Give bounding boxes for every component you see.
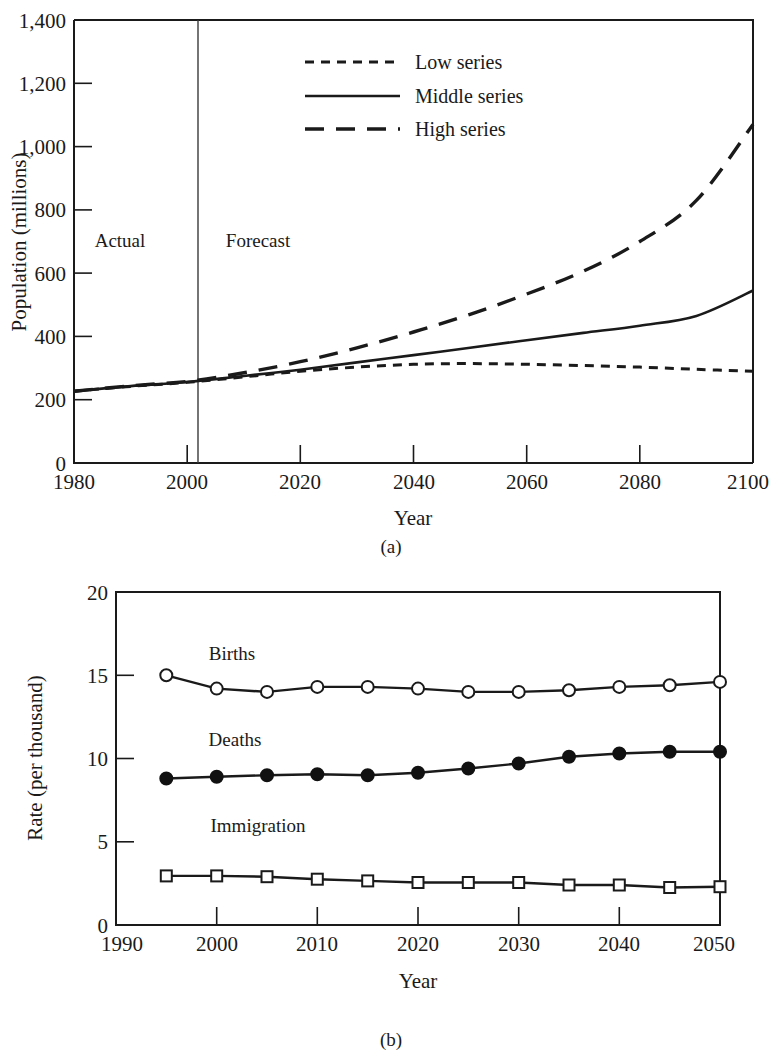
marker-births — [412, 683, 424, 695]
marker-births — [613, 681, 625, 693]
y-tick-label: 10 — [87, 747, 108, 771]
x-tick-labels-a: 1980 2000 2020 2040 2060 2080 2100 — [53, 470, 769, 494]
x-tick-label: 2080 — [619, 470, 661, 494]
y-tick-label: 1,400 — [19, 9, 66, 33]
axis-frame-top-right-a — [74, 20, 753, 463]
y-tick-labels-b: 20 15 10 5 0 — [87, 581, 108, 938]
marker-births — [462, 686, 474, 698]
curve-middle-series — [74, 291, 753, 392]
y-tick-label: 15 — [87, 664, 108, 688]
marker-births — [211, 683, 223, 695]
marker-deaths — [412, 767, 424, 779]
y-tick-label: 1,200 — [19, 72, 66, 96]
marker-births — [513, 686, 525, 698]
figure-a-population-forecast: 1,400 1,200 1,000 800 600 400 200 0 1980… — [0, 0, 782, 560]
marker-births — [311, 681, 323, 693]
marker-deaths — [714, 746, 726, 758]
line-immigration — [166, 876, 720, 888]
marker-deaths — [261, 769, 273, 781]
marker-immigration — [161, 870, 172, 881]
x-ticks-b — [217, 907, 620, 925]
x-tick-label: 2050 — [693, 932, 735, 956]
x-tick-label: 2040 — [598, 932, 640, 956]
y-ticks-b — [116, 675, 134, 842]
marker-deaths — [664, 746, 676, 758]
x-tick-label: 1990 — [101, 932, 143, 956]
chart-a-axes — [74, 20, 753, 463]
marker-immigration — [664, 882, 675, 893]
marker-immigration — [715, 881, 726, 892]
x-tick-label: 2000 — [166, 470, 208, 494]
marker-births — [261, 686, 273, 698]
x-axis-title-a: Year — [394, 506, 433, 530]
chart-b-svg: 20 15 10 5 0 1990 2000 2010 2020 2030 20… — [0, 560, 782, 1059]
x-tick-label: 1980 — [53, 470, 95, 494]
marker-immigration — [312, 874, 323, 885]
x-tick-label: 2040 — [393, 470, 435, 494]
x-tick-label: 2100 — [727, 470, 769, 494]
legend-a: Low series Middle series High series — [305, 51, 524, 141]
marker-deaths — [563, 751, 575, 763]
chart-a-curves — [74, 124, 753, 391]
marker-deaths — [462, 763, 474, 775]
x-tick-label: 2020 — [279, 470, 321, 494]
marker-immigration — [211, 870, 222, 881]
figure-b-vital-rates: 20 15 10 5 0 1990 2000 2010 2020 2030 20… — [0, 560, 782, 1059]
y-ticks-a — [74, 83, 92, 399]
marker-immigration — [614, 880, 625, 891]
y-axis-title-b: Rate (per thousand) — [23, 675, 47, 841]
marker-immigration — [262, 871, 273, 882]
marker-deaths — [613, 748, 625, 760]
x-tick-labels-b: 1990 2000 2010 2020 2030 2040 2050 — [101, 932, 735, 956]
marker-deaths — [513, 758, 525, 770]
chart-a-svg: 1,400 1,200 1,000 800 600 400 200 0 1980… — [0, 0, 782, 560]
marker-births — [160, 669, 172, 681]
legend-label-high-series: High series — [415, 118, 506, 141]
marker-births — [664, 679, 676, 691]
x-tick-label: 2060 — [506, 470, 548, 494]
legend-label-middle-series: Middle series — [415, 85, 524, 107]
y-tick-label: 800 — [35, 198, 67, 222]
x-tick-label: 2000 — [196, 932, 238, 956]
marker-immigration — [463, 877, 474, 888]
caption-a: (a) — [380, 536, 401, 558]
x-tick-label: 2030 — [498, 932, 540, 956]
marker-births — [714, 676, 726, 688]
marker-immigration — [413, 877, 424, 888]
curve-low-series — [74, 364, 753, 392]
annotation-forecast: Forecast — [226, 230, 291, 251]
marker-deaths — [362, 769, 374, 781]
chart-b-curves — [160, 669, 726, 893]
annotation-actual: Actual — [95, 230, 146, 251]
series-label-deaths: Deaths — [209, 729, 262, 750]
series-label-immigration: Immigration — [211, 815, 306, 836]
x-tick-label: 2010 — [296, 932, 338, 956]
y-tick-label: 5 — [98, 830, 109, 854]
line-deaths — [166, 752, 720, 779]
x-ticks-a — [74, 445, 753, 463]
marker-births — [362, 681, 374, 693]
y-tick-label: 200 — [35, 388, 67, 412]
legend-label-low-series: Low series — [415, 51, 502, 73]
marker-deaths — [160, 773, 172, 785]
line-births — [166, 675, 720, 692]
caption-b: (b) — [380, 1029, 402, 1051]
y-axis-title-a: Population (millions) — [7, 152, 31, 331]
marker-immigration — [362, 875, 373, 886]
marker-deaths — [311, 768, 323, 780]
y-tick-label: 20 — [87, 581, 108, 605]
x-axis-title-b: Year — [399, 969, 438, 993]
marker-deaths — [211, 771, 223, 783]
marker-births — [563, 684, 575, 696]
marker-immigration — [513, 877, 524, 888]
y-tick-label: 600 — [35, 262, 67, 286]
marker-immigration — [564, 880, 575, 891]
series-label-births: Births — [209, 643, 255, 664]
y-tick-label: 400 — [35, 325, 67, 349]
x-tick-label: 2020 — [397, 932, 439, 956]
axis-lines-a — [74, 20, 753, 463]
curve-high-series — [74, 124, 753, 391]
